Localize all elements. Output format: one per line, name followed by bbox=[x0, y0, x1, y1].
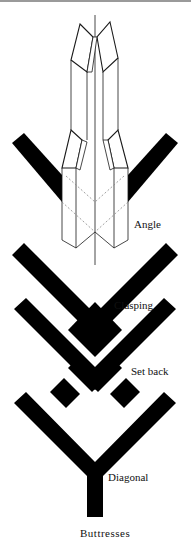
angle-wall-left bbox=[12, 133, 62, 202]
label-angle: Angle bbox=[134, 218, 161, 230]
label-diagonal: Diagonal bbox=[108, 471, 148, 483]
figure-caption: Buttresses bbox=[80, 527, 130, 537]
diagonal-buttress-illustration bbox=[14, 392, 176, 517]
buttress-diagram bbox=[0, 0, 191, 537]
label-clasping: Clasping bbox=[114, 299, 153, 311]
label-set-back: Set back bbox=[131, 365, 169, 377]
angle-wall-right bbox=[128, 133, 178, 202]
